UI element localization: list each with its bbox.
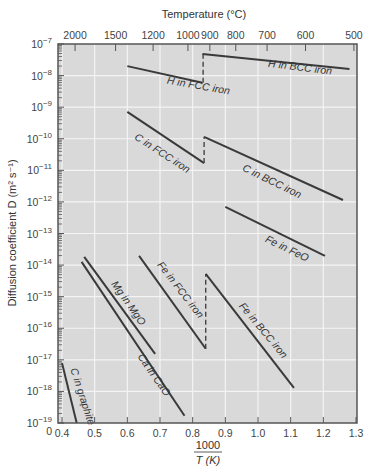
top-tick-label: 1000 (176, 29, 200, 41)
y-tick-exponent: −16 (38, 320, 52, 329)
y-tick-label: 10−8 (31, 68, 52, 82)
x-tick-label: 1.2 (316, 427, 331, 439)
origin-zero-label: 0 (46, 425, 52, 437)
y-tick-label: 10−13 (27, 226, 53, 240)
y-tick-exponent: −18 (38, 383, 52, 392)
y-tick-exponent: −11 (39, 162, 53, 171)
y-tick-exponent: −15 (38, 289, 52, 298)
y-tick-exponent: −12 (38, 194, 52, 203)
y-tick-label: 10−18 (27, 383, 53, 397)
y-tick-exponent: −19 (38, 415, 52, 424)
x-tick-label: 1.3 (349, 427, 364, 439)
y-tick-label: 10−12 (27, 194, 53, 208)
y-tick-label: 10−10 (27, 131, 53, 145)
x-tick-label: 1.0 (251, 427, 266, 439)
y-tick-exponent: −17 (38, 352, 52, 361)
top-tick-label: 600 (297, 29, 315, 41)
diffusion-coefficient-chart: H in FCC ironH in BCC ironC in FCC ironC… (0, 0, 377, 474)
x-tick-label: 0.4 (55, 427, 70, 439)
top-tick-label: 700 (258, 29, 276, 41)
x-axis-title-numerator: 1000 (196, 439, 220, 451)
y-tick-label: 10−7 (31, 36, 52, 50)
x-tick-label: 0.5 (87, 427, 102, 439)
x-tick-label: 0.6 (120, 427, 135, 439)
x-tick-label: 0.8 (185, 427, 200, 439)
y-tick-label: 10−11 (27, 162, 52, 176)
y-tick-label: 10−17 (27, 352, 53, 366)
top-tick-label: 1500 (104, 29, 128, 41)
top-tick-label: 800 (227, 29, 245, 41)
y-tick-label: 10−9 (31, 99, 52, 113)
top-tick-label: 2000 (63, 29, 87, 41)
y-tick-exponent: −7 (43, 36, 53, 45)
y-tick-exponent: −14 (38, 257, 52, 266)
top-axis-title: Temperature (°C) (162, 8, 246, 20)
x-tick-label: 0.7 (153, 427, 168, 439)
y-tick-exponent: −9 (43, 99, 53, 108)
x-axis-title-denominator: T (K) (196, 454, 221, 466)
y-tick-exponent: −13 (38, 226, 52, 235)
y-tick-label: 10−14 (27, 257, 53, 271)
y-tick-label: 10−16 (27, 320, 53, 334)
y-tick-exponent: −10 (38, 131, 52, 140)
y-tick-label: 10−15 (27, 289, 53, 303)
top-tick-label: 500 (345, 29, 363, 41)
y-axis-title: Diffusion coefficient D (m² s⁻¹) (6, 159, 18, 306)
x-tick-label: 0.9 (218, 427, 233, 439)
top-tick-label: 900 (201, 29, 219, 41)
top-tick-label: 1200 (141, 29, 165, 41)
x-tick-label: 1.1 (283, 427, 298, 439)
y-tick-exponent: −8 (43, 68, 53, 77)
